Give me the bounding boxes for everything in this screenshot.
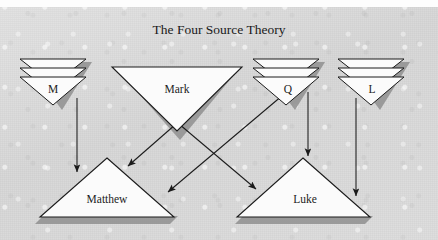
node-m-label: M (48, 83, 58, 95)
node-l[interactable]: L (338, 59, 404, 105)
arrow-mark-to-luke (179, 124, 256, 189)
figure-title: The Four Source Theory (153, 22, 286, 37)
node-mark-label: Mark (165, 83, 190, 95)
node-mark[interactable]: Mark (112, 67, 242, 131)
node-matthew-triangle (40, 158, 174, 217)
node-luke[interactable]: Luke (237, 158, 370, 217)
four-source-theory-diagram: M Mark Q L Matthew Lu (0, 0, 438, 240)
node-l-label: L (368, 83, 375, 95)
node-luke-label: Luke (293, 193, 317, 205)
node-q[interactable]: Q (253, 59, 319, 105)
node-q-label: Q (284, 83, 293, 95)
node-matthew-label: Matthew (87, 193, 129, 205)
node-mark-triangle (112, 67, 242, 131)
arrow-mark-to-matthew (128, 124, 176, 166)
node-matthew[interactable]: Matthew (40, 158, 174, 217)
figure-canvas: M Mark Q L Matthew Lu (0, 0, 438, 240)
node-luke-triangle (237, 158, 370, 217)
node-m[interactable]: M (20, 59, 86, 105)
